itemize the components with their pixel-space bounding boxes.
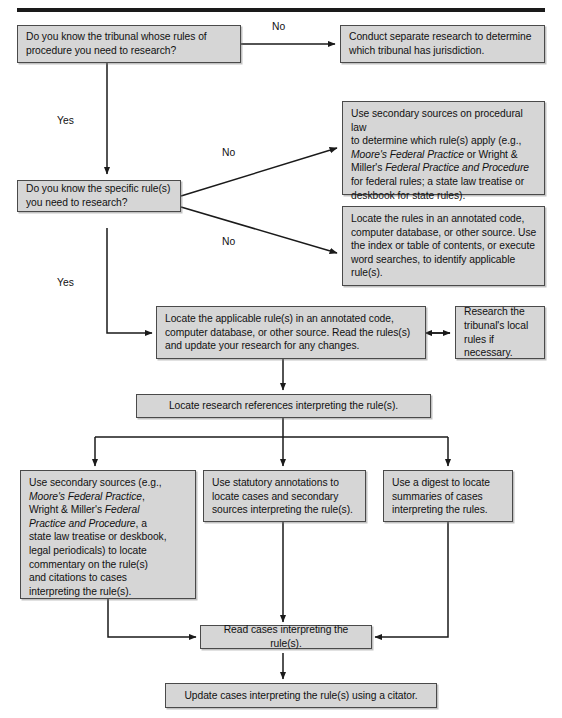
line-4-rest: , a (136, 518, 147, 529)
edge-rules-yes (107, 228, 152, 333)
edge-rules-no-upper (181, 148, 337, 196)
edge-label-yes-mid: Yes (57, 277, 74, 289)
line-5: for federal rules; a state law treatise … (351, 176, 524, 187)
line-4-title: Practice and Procedure (29, 518, 136, 529)
line-3-title: Federal (105, 504, 140, 515)
line-1: Use secondary sources on procedural law (351, 108, 523, 133)
node-use-secondary-sources[interactable]: Use secondary sources (e.g., Moore's Fed… (20, 470, 196, 599)
node-conduct-separate-research[interactable]: Conduct separate research to determine w… (340, 25, 545, 63)
node-use-digest[interactable]: Use a digest to locate summaries of case… (383, 470, 513, 522)
line-3-title: Moore's Federal Practice (351, 149, 464, 160)
node-locate-research-references[interactable]: Locate research references interpreting … (136, 394, 431, 418)
line-2-title: Moore's Federal Practice (29, 491, 142, 502)
node-locate-rules-annotated-code[interactable]: Locate the rules in an annotated code, c… (342, 206, 545, 286)
edge-label-yes-top: Yes (57, 115, 74, 127)
line-4-title: Federal Practice and Procedure (385, 162, 529, 173)
node-use-statutory-annotations[interactable]: Use statutory annotations to locate case… (203, 470, 366, 522)
edge-secondary-to-read (108, 599, 196, 637)
flowchart-canvas: Do you know the tribunal whose rules of … (0, 0, 562, 718)
edge-label-no-mid-lower: No (222, 236, 235, 248)
edge-label-no-mid-upper: No (222, 147, 235, 159)
node-locate-applicable-rule[interactable]: Locate the applicable rule(s) in an anno… (156, 306, 426, 359)
line-3-rest: or Wright & (464, 149, 518, 160)
line-4-pre: Miller's (351, 162, 385, 173)
line-5: state law treatise or deskbook, (29, 531, 167, 542)
line-3-pre: Wright & Miller's (29, 504, 105, 515)
line-8: and citations to cases (29, 572, 127, 583)
line-1: Use secondary sources (e.g., (29, 477, 162, 488)
node-update-cases[interactable]: Update cases interpreting the rule(s) us… (165, 683, 437, 708)
line-7: commentary on the rule(s) (29, 559, 148, 570)
edge-digest-to-read (375, 522, 448, 637)
node-read-cases[interactable]: Read cases interpreting the rule(s). (200, 625, 372, 649)
node-research-local-rules[interactable]: Research the tribunal's local rules if n… (455, 306, 545, 359)
node-secondary-sources-procedural[interactable]: Use secondary sources on procedural law … (342, 101, 545, 195)
line-6: deskbook for state rules). (351, 190, 465, 201)
node-question-specific-rules[interactable]: Do you know the specific rule(s) you nee… (17, 180, 181, 212)
line-2: to determine which rule(s) apply (e.g., (351, 135, 521, 146)
edge-label-no-top: No (272, 21, 285, 33)
line-6: legal periodicals) to locate (29, 545, 147, 556)
edge-rules-no-lower (181, 207, 337, 253)
node-question-tribunal[interactable]: Do you know the tribunal whose rules of … (17, 25, 241, 63)
line-9: interpreting the rule(s). (29, 586, 131, 597)
line-2-rest: , (142, 491, 145, 502)
